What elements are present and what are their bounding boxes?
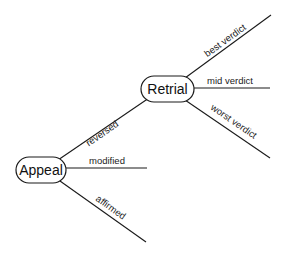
- edge-best-verdict: [185, 15, 271, 78]
- node-retrial-label: Retrial: [147, 81, 187, 97]
- label-modified: modified: [89, 155, 125, 166]
- node-appeal: Appeal: [16, 157, 66, 183]
- label-mid-verdict: mid verdict: [207, 75, 253, 86]
- edge-worst-verdict: [185, 100, 270, 158]
- label-reversed: reversed: [84, 118, 121, 148]
- edge-affirmed: [60, 181, 146, 242]
- label-best-verdict: best verdict: [202, 21, 248, 59]
- decision-tree-diagram: reversed modified affirmed best verdict …: [0, 0, 284, 254]
- node-retrial: Retrial: [141, 76, 194, 102]
- node-appeal-label: Appeal: [19, 162, 63, 178]
